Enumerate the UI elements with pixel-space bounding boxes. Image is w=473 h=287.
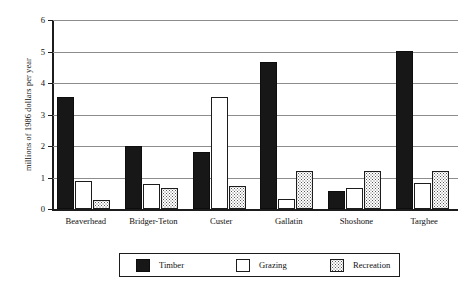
bar-shoshone-grazing (346, 188, 363, 209)
bar-bridger-teton-grazing (143, 184, 160, 209)
legend-item-recreation[interactable]: Recreation (330, 254, 390, 276)
bar-gallatin-grazing (278, 199, 295, 209)
bar-custer-recreation (229, 186, 246, 209)
category-label-beaverhead: Beaverhead (52, 216, 120, 226)
legend-label-grazing: Grazing (259, 260, 287, 270)
legend-label-recreation: Recreation (353, 260, 390, 270)
y-tick-mark (48, 20, 53, 21)
bar-targhee-timber (396, 51, 413, 209)
bar-beaverhead-grazing (75, 181, 92, 209)
y-axis-line (52, 20, 54, 211)
bar-custer-grazing (211, 97, 228, 209)
bar-chart: millions of 1986 dollars per year 012345… (0, 0, 473, 287)
bar-bridger-teton-recreation (161, 188, 178, 209)
category-label-shoshone: Shoshone (323, 216, 391, 226)
bar-beaverhead-timber (57, 97, 74, 209)
y-tick-label: 4 (41, 79, 45, 88)
bar-custer-timber (193, 152, 210, 209)
y-tick-label: 5 (41, 47, 45, 56)
category-label-gallatin: Gallatin (255, 216, 323, 226)
legend-swatch-timber (136, 259, 150, 272)
y-tick-mark (48, 115, 53, 116)
x-axis-line (52, 209, 458, 211)
bar-gallatin-recreation (296, 171, 313, 209)
legend-label-timber: Timber (159, 260, 184, 270)
category-label-bridger-teton: Bridger-Teton (120, 216, 188, 226)
y-tick-label: 3 (41, 110, 45, 119)
bar-shoshone-recreation (364, 171, 381, 209)
legend-swatch-recreation (330, 259, 344, 272)
bar-targhee-recreation (432, 171, 449, 209)
bar-targhee-grazing (414, 183, 431, 209)
category-label-targhee: Targhee (390, 216, 458, 226)
bar-beaverhead-recreation (93, 200, 110, 209)
bar-gallatin-timber (260, 62, 277, 209)
y-tick-label: 0 (41, 205, 45, 214)
legend: TimberGrazingRecreation (119, 253, 400, 277)
y-tick-mark (48, 146, 53, 147)
gridline-6 (52, 20, 458, 21)
y-tick-mark (48, 178, 53, 179)
category-label-custer: Custer (187, 216, 255, 226)
y-tick-mark (48, 209, 53, 210)
bar-shoshone-timber (328, 191, 345, 209)
y-tick-label: 6 (41, 16, 45, 25)
legend-swatch-grazing (236, 259, 250, 272)
legend-item-grazing[interactable]: Grazing (236, 254, 287, 276)
y-tick-label: 1 (41, 173, 45, 182)
y-tick-mark (48, 83, 53, 84)
y-tick-mark (48, 52, 53, 53)
legend-item-timber[interactable]: Timber (136, 254, 184, 276)
plot-area: 0123456 (52, 20, 458, 211)
y-tick-label: 2 (41, 142, 45, 151)
y-axis-title: millions of 1986 dollars per year (24, 30, 33, 200)
bar-bridger-teton-timber (125, 146, 142, 209)
